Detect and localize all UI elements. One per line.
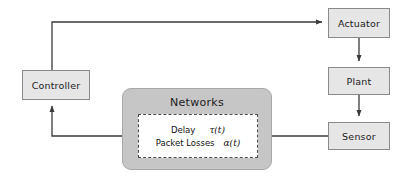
block-actuator-label: Actuator <box>338 18 380 29</box>
block-plant[interactable]: Plant <box>328 67 390 95</box>
param-label-packet-losses: Packet Losses <box>156 138 215 148</box>
block-controller[interactable]: Controller <box>22 70 90 100</box>
diagram-canvas: Networks Delay τ(t) Packet Losses α(t) A… <box>0 0 410 179</box>
param-row-delay: Delay τ(t) <box>171 125 225 135</box>
block-controller-label: Controller <box>32 80 81 91</box>
block-actuator[interactable]: Actuator <box>328 8 390 38</box>
wire-controller-to-actuator <box>52 22 322 70</box>
block-sensor-label: Sensor <box>342 131 376 142</box>
networks-label: Networks <box>123 96 271 109</box>
param-symbol-packet-losses: α(t) <box>224 138 241 148</box>
param-symbol-delay: τ(t) <box>209 125 225 135</box>
param-row-packet-losses: Packet Losses α(t) <box>156 138 241 148</box>
block-plant-label: Plant <box>347 76 372 87</box>
block-sensor[interactable]: Sensor <box>328 122 390 150</box>
param-label-delay: Delay <box>171 125 195 135</box>
network-parameters-box[interactable]: Delay τ(t) Packet Losses α(t) <box>138 114 258 158</box>
